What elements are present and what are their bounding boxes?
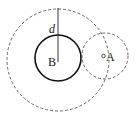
- label-b: B: [48, 55, 56, 69]
- diagram-canvas: d B A: [0, 0, 137, 119]
- point-a-marker: [102, 54, 106, 58]
- label-d: d: [49, 22, 56, 36]
- label-a: A: [106, 50, 115, 64]
